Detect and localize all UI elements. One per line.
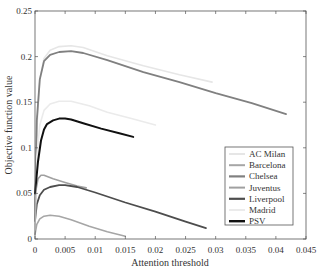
x-tick-label: 0.015 — [115, 245, 136, 255]
legend-label: Madrid — [249, 205, 276, 215]
x-tick-label: 0.045 — [296, 245, 317, 255]
x-tick-label: 0.04 — [268, 245, 284, 255]
y-tick-label: 0.25 — [16, 6, 32, 16]
y-tick-label: 0.15 — [16, 97, 32, 107]
legend: AC MilanBarcelonaChelseaJuventusLiverpoo… — [225, 147, 293, 226]
y-axis-label: Objective function value — [3, 75, 14, 174]
x-tick-label: 0 — [33, 245, 38, 255]
y-tick-label: 0.05 — [16, 188, 32, 198]
x-tick-label: 0.005 — [55, 245, 76, 255]
x-tick-label: 0.02 — [148, 245, 164, 255]
legend-label: PSV — [249, 216, 266, 226]
legend-label: Juventus — [249, 183, 281, 193]
legend-label: Chelsea — [249, 171, 278, 181]
legend-label: AC Milan — [249, 149, 286, 159]
x-tick-label: 0.01 — [87, 245, 103, 255]
x-tick-label: 0.035 — [236, 245, 257, 255]
x-axis-label: Attention threshold — [131, 257, 209, 268]
x-tick-label: 0.025 — [175, 245, 196, 255]
legend-label: Barcelona — [249, 160, 285, 170]
y-tick-label: 0 — [28, 234, 33, 244]
line-chart: 00.0050.010.0150.020.0250.030.0350.040.0… — [0, 0, 324, 272]
legend-label: Liverpool — [249, 194, 285, 204]
y-tick-label: 0.1 — [21, 143, 32, 153]
y-tick-label: 0.2 — [21, 52, 32, 62]
chart-background — [0, 0, 324, 272]
x-tick-label: 0.03 — [208, 245, 224, 255]
